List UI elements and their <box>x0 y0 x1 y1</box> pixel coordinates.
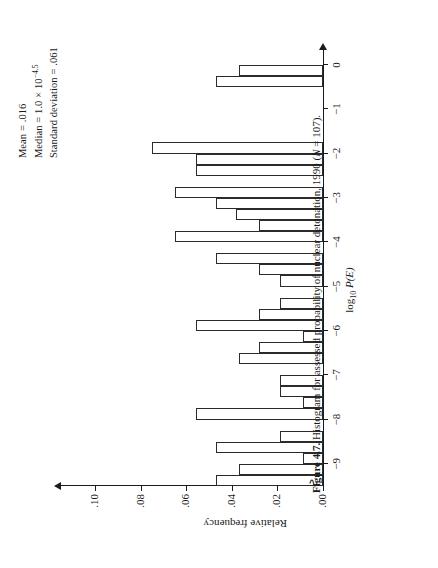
x-axis-tick-label: −8 <box>330 405 342 435</box>
histogram-bar <box>175 187 323 198</box>
y-axis-tick-label: .00 <box>316 494 328 528</box>
histogram-bar <box>175 231 323 242</box>
x-axis-tick-label: −1 <box>330 94 342 124</box>
stat-median: Median = 1.0 × 10−4.5 <box>31 8 47 158</box>
figure-caption: Figure 4.7. Histogram for assessed proba… <box>310 73 322 493</box>
x-axis-tick-label: −3 <box>330 183 342 213</box>
y-axis-tick-label: .06 <box>179 494 191 528</box>
x-axis-tick-label: −9 <box>330 449 342 479</box>
x-axis-tick <box>323 286 328 287</box>
y-axis-tick <box>95 485 96 491</box>
statistics-annotation: Mean = .016 Median = 1.0 × 10−4.5 Standa… <box>16 8 62 158</box>
x-axis-label-main: log <box>343 299 355 313</box>
x-axis-tick-label: −5 <box>330 272 342 302</box>
histogram-chart: 0−1−2−3−4−5−6−7−8−9.00.02.04.06.08.10 ∿ … <box>54 24 384 544</box>
histogram-bar <box>216 442 323 453</box>
x-axis-tick <box>323 153 328 154</box>
x-axis-label: log10 P(E) <box>343 267 358 312</box>
x-axis-tick <box>323 108 328 109</box>
x-axis-tick-label: −7 <box>330 360 342 390</box>
y-axis-tick <box>186 485 187 491</box>
x-axis-tick-label: 0 <box>330 50 342 80</box>
x-axis-tick-label: −6 <box>330 316 342 346</box>
histogram-bar <box>216 198 323 209</box>
x-axis-label-sub: 10 <box>349 291 358 299</box>
x-axis-tick <box>323 330 328 331</box>
stat-standard-deviation: Standard deviation = .061 <box>47 8 62 158</box>
histogram-bar <box>152 142 323 153</box>
x-axis-tick <box>323 374 328 375</box>
x-axis-label-variable: P(E) <box>343 267 355 288</box>
stat-median-exponent: −4.5 <box>31 64 40 78</box>
stat-median-prefix: Median = 1.0 × 10 <box>33 78 44 158</box>
histogram-bar <box>196 408 324 419</box>
x-axis-tick <box>323 64 328 65</box>
x-axis-tick <box>323 419 328 420</box>
stat-mean: Mean = .016 <box>16 8 31 158</box>
y-axis-tick-label: .10 <box>88 494 100 528</box>
figure-caption-text: Histogram for assessed probability of nu… <box>310 157 322 440</box>
y-axis-tick-label: .08 <box>134 494 146 528</box>
histogram-bar <box>216 76 323 87</box>
histogram-bar <box>216 253 323 264</box>
histogram-bar <box>196 154 324 165</box>
y-axis-tick <box>277 485 278 491</box>
y-axis-tick <box>323 485 324 491</box>
histogram-bar <box>196 320 324 331</box>
figure-page: 0−1−2−3−4−5−6−7−8−9.00.02.04.06.08.10 ∿ … <box>0 0 438 568</box>
y-axis-tick <box>232 485 233 491</box>
x-axis-tick-label: −4 <box>330 227 342 257</box>
rotated-figure-plate: 0−1−2−3−4−5−6−7−8−9.00.02.04.06.08.10 ∿ … <box>0 0 438 568</box>
x-axis-tick <box>323 241 328 242</box>
y-axis-label: Relative frequency <box>204 518 287 530</box>
histogram-bar <box>196 165 324 176</box>
figure-caption-n-symbol: N <box>310 150 322 157</box>
x-axis-tick <box>323 197 328 198</box>
x-axis-tick-label: −2 <box>330 139 342 169</box>
y-axis-tick <box>141 485 142 491</box>
x-axis-tick <box>323 463 328 464</box>
figure-caption-n-value: = 107). <box>310 115 322 150</box>
figure-caption-label: Figure 4.7. <box>310 443 322 493</box>
